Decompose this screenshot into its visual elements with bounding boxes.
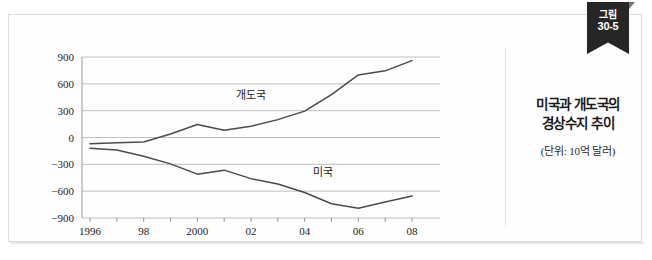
series-line-미국 <box>90 148 412 208</box>
y-axis-tick-label: 900 <box>58 51 75 63</box>
x-axis-tick-label: 06 <box>353 225 365 237</box>
x-axis-tick-label: 02 <box>246 225 257 237</box>
x-axis-group <box>82 57 412 222</box>
y-axis-tick-label: 600 <box>58 78 75 90</box>
y-axis-tick-labels: 9006003000−300−600−900 <box>51 51 74 224</box>
y-axis-tick-label: −900 <box>51 212 74 224</box>
x-axis-tick-label: 1996 <box>79 225 102 237</box>
y-axis-tick-label: −600 <box>51 185 74 197</box>
ribbon-label-number: 30-5 <box>587 21 629 33</box>
ribbon-label-figure: 그림 <box>587 10 629 21</box>
chart-unit-note: (단위: 10억 달러) <box>516 142 640 158</box>
x-axis-tick-label: 2000 <box>186 225 209 237</box>
y-axis-tick-label: 0 <box>69 132 75 144</box>
chart-area: 9006003000−300−600−900 19969820000204060… <box>0 0 500 260</box>
ribbon-fold-icon <box>629 2 635 9</box>
x-axis-tick-label: 08 <box>407 225 419 237</box>
x-axis-tick-label: 98 <box>138 225 150 237</box>
series-label-미국: 미국 <box>313 166 333 178</box>
y-axis-tick-label: 300 <box>58 105 75 117</box>
series-label-개도국: 개도국 <box>236 89 266 101</box>
figure-container: 그림 30-5 미국과 개도국의 경상수지 추이 (단위: 10억 달러) 90… <box>0 0 652 260</box>
line-chart: 9006003000−300−600−900 19969820000204060… <box>0 0 500 260</box>
caption-panel: 미국과 개도국의 경상수지 추이 (단위: 10억 달러) <box>516 95 640 158</box>
series-line-개도국 <box>90 61 412 144</box>
x-axis-tick-labels: 199698200002040608 <box>79 225 418 237</box>
y-axis-tick-label: −300 <box>51 158 74 170</box>
chart-title: 미국과 개도국의 경상수지 추이 <box>516 95 640 133</box>
chart-title-line-1: 미국과 개도국의 <box>516 95 640 114</box>
x-axis-tick-label: 04 <box>299 225 311 237</box>
gridlines-group <box>82 57 440 218</box>
chart-title-line-2: 경상수지 추이 <box>516 114 640 133</box>
panel-divider <box>505 47 506 227</box>
data-series-group <box>90 61 412 209</box>
